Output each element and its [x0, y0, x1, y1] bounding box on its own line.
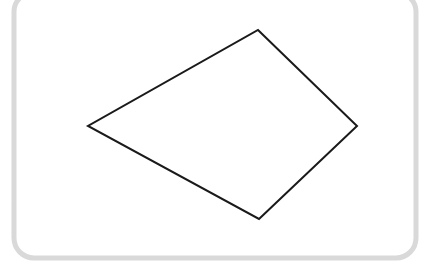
figure-container: [0, 0, 437, 272]
figure-canvas: [0, 0, 437, 272]
canvas-background: [0, 0, 437, 272]
